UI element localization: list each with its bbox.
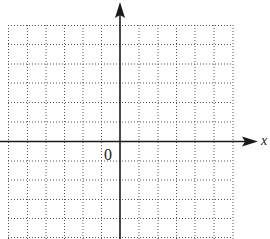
x-axis-label: x [260, 133, 268, 148]
coordinate-plane: x 0 [0, 0, 270, 239]
origin-label: 0 [104, 146, 112, 163]
